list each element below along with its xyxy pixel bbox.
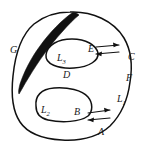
label-L3-sub: 3: [63, 58, 66, 65]
label-E: E: [88, 44, 94, 54]
label-L1: L1: [117, 94, 126, 107]
label-L3: L3: [57, 53, 66, 66]
lower-arrow-right-head: [104, 108, 110, 113]
label-A: A: [98, 127, 104, 137]
label-C: C: [128, 52, 135, 62]
label-F: F: [126, 73, 132, 83]
black-crescent-cut: [19, 13, 79, 94]
label-L2-sub: 2: [47, 110, 50, 117]
upper-arrow-left-head: [96, 52, 102, 57]
label-L1-sub: 1: [123, 99, 126, 106]
upper-arrow-right-head: [113, 43, 119, 48]
label-B: B: [74, 107, 80, 117]
label-L2: L2: [41, 105, 50, 118]
lower-arrow-left-head: [88, 118, 94, 123]
label-D: D: [63, 70, 70, 80]
diagram-canvas: [0, 0, 145, 153]
figure-root: G C F L1 D L3 E L2 B A: [0, 0, 145, 153]
label-G: G: [10, 45, 17, 55]
